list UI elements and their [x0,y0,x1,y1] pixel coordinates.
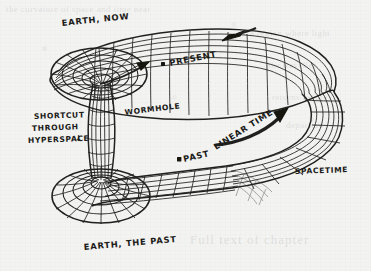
lower-sheet-longitudinal-lines [95,166,239,205]
label-earth-now: EARTH, NOW [61,11,130,28]
label-wormhole: WORMHOLE [124,101,181,117]
throat-vertical-lines [92,85,109,177]
past-event-dot [177,157,181,161]
lower-funnel [52,167,150,224]
wormhole-diagram: EARTH, NOW PRESENT WORMHOLE SHORTCUT THR… [0,0,371,271]
label-spacetime: SPACETIME [295,165,348,176]
wormhole-throat [87,84,115,178]
shortcut-down-arrow-icon: ↓ [75,133,83,143]
label-earth-the-past: EARTH, THE PAST [83,234,177,252]
figure-canvas: the curvature of space and time near a r… [0,0,371,271]
label-shortcut-line1: SHORTCUT [34,110,85,121]
label-shortcut-line2: THROUGH [32,122,79,133]
present-event-dot [161,62,165,66]
label-past: PAST [182,148,210,164]
